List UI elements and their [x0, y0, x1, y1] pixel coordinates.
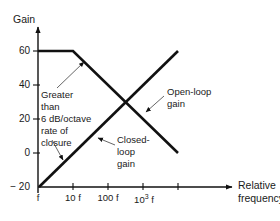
- leader-line-closed-loop: [98, 138, 115, 145]
- y-tick-label-20: 20: [0, 113, 30, 124]
- leader-line-closure-upper: [57, 62, 84, 88]
- annotation-closed-loop-line3: gain: [117, 158, 135, 169]
- annotation-closure-line2: than: [41, 101, 60, 112]
- x-tick-label-100f: 100 f: [90, 193, 126, 204]
- y-tick-label-60: 60: [0, 45, 30, 56]
- x-tick-suffix: f: [149, 194, 154, 205]
- annotation-open-loop-line1: Open-loop: [167, 86, 211, 97]
- annotation-closed-loop-line1: Closed-: [117, 134, 150, 145]
- leader-line-open-loop: [146, 96, 164, 112]
- y-tick-label-0: 0: [0, 147, 30, 158]
- x-tick-label-f: f: [26, 193, 50, 204]
- x-tick-label-10cubed-f: 103 f: [126, 193, 162, 206]
- x-axis-title-line1: Relative: [238, 180, 276, 192]
- annotation-closure-line3: 6 dB/octave: [41, 113, 91, 124]
- y-tick-label-minus-20: − 20: [0, 181, 30, 192]
- gain-vs-frequency-figure: Gain 60 40 20 0 − 20 f 10 f 100 f 103 f …: [0, 0, 280, 221]
- x-tick-label-10f: 10 f: [57, 193, 89, 204]
- annotation-open-loop-line2: gain: [167, 98, 185, 109]
- y-tick-marks: [33, 51, 40, 153]
- y-tick-label-40: 40: [0, 79, 30, 90]
- annotation-closure-line5: closure: [41, 137, 72, 148]
- x-tick-base: 10: [134, 194, 145, 205]
- annotation-closed-loop-line2: loop: [117, 146, 135, 157]
- annotation-closure-line4: rate of: [41, 125, 68, 136]
- x-axis-title-line2: frequency: [238, 193, 280, 205]
- y-axis-title: Gain: [13, 14, 35, 26]
- annotation-closure-line1: Greater: [41, 89, 73, 100]
